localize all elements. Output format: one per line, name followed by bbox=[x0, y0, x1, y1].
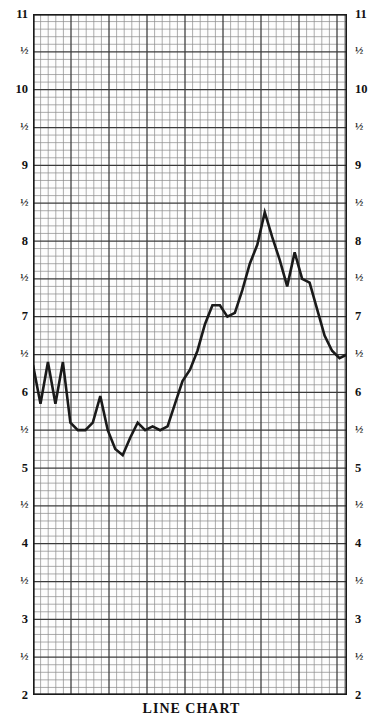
y-tick-left-9: 9 bbox=[22, 159, 28, 172]
half-fraction-glyph: ½ bbox=[355, 45, 363, 56]
y-tick-right-7_5: ½ bbox=[355, 272, 363, 283]
y-tick-left-10: 10 bbox=[16, 83, 29, 96]
half-fraction-glyph: ½ bbox=[355, 197, 363, 208]
y-tick-left-9_5: ½ bbox=[20, 121, 28, 132]
plot-area bbox=[33, 14, 347, 695]
half-fraction-glyph: ½ bbox=[20, 45, 28, 56]
y-tick-right-5: 5 bbox=[355, 462, 361, 475]
half-fraction-glyph: ½ bbox=[355, 272, 363, 283]
y-tick-left-8_5: ½ bbox=[20, 197, 28, 208]
y-tick-right-10: 10 bbox=[355, 83, 368, 96]
half-fraction-glyph: ½ bbox=[355, 575, 363, 586]
half-fraction-glyph: ½ bbox=[355, 424, 363, 435]
y-tick-right-7: 7 bbox=[355, 310, 361, 323]
half-fraction-glyph: ½ bbox=[20, 272, 28, 283]
y-tick-right-2: 2 bbox=[355, 689, 361, 702]
y-tick-left-2: 2 bbox=[22, 689, 28, 702]
y-tick-right-9: 9 bbox=[355, 159, 361, 172]
half-fraction-glyph: ½ bbox=[20, 197, 28, 208]
y-axis-right: 11½10½9½8½7½6½5½4½3½2 bbox=[351, 0, 383, 715]
y-tick-right-4_5: ½ bbox=[355, 499, 363, 510]
half-fraction-glyph: ½ bbox=[20, 348, 28, 359]
y-tick-right-9_5: ½ bbox=[355, 121, 363, 132]
y-tick-right-6_5: ½ bbox=[355, 348, 363, 359]
y-tick-left-8: 8 bbox=[22, 235, 28, 248]
half-fraction-glyph: ½ bbox=[20, 121, 28, 132]
half-fraction-glyph: ½ bbox=[20, 575, 28, 586]
y-tick-right-5_5: ½ bbox=[355, 424, 363, 435]
half-fraction-glyph: ½ bbox=[20, 499, 28, 510]
y-tick-left-6: 6 bbox=[22, 386, 28, 399]
y-tick-right-8: 8 bbox=[355, 235, 361, 248]
y-tick-right-3: 3 bbox=[355, 613, 361, 626]
line-chart-figure: 11½10½9½8½7½6½5½4½3½2 11½10½9½8½7½6½5½4½… bbox=[0, 0, 383, 715]
y-tick-left-3: 3 bbox=[22, 613, 28, 626]
half-fraction-glyph: ½ bbox=[20, 651, 28, 662]
y-tick-left-5_5: ½ bbox=[20, 424, 28, 435]
y-tick-right-10_5: ½ bbox=[355, 45, 363, 56]
y-tick-right-6: 6 bbox=[355, 386, 361, 399]
y-tick-right-2_5: ½ bbox=[355, 651, 363, 662]
y-tick-left-7_5: ½ bbox=[20, 272, 28, 283]
y-tick-left-4: 4 bbox=[22, 537, 28, 550]
y-tick-left-7: 7 bbox=[22, 310, 28, 323]
y-axis-left: 11½10½9½8½7½6½5½4½3½2 bbox=[0, 0, 32, 715]
half-fraction-glyph: ½ bbox=[355, 348, 363, 359]
y-tick-left-3_5: ½ bbox=[20, 575, 28, 586]
chart-caption: LINE CHART bbox=[0, 701, 383, 715]
y-tick-right-4: 4 bbox=[355, 537, 361, 550]
y-tick-left-11: 11 bbox=[16, 8, 28, 21]
y-tick-left-10_5: ½ bbox=[20, 45, 28, 56]
half-fraction-glyph: ½ bbox=[355, 499, 363, 510]
half-fraction-glyph: ½ bbox=[355, 121, 363, 132]
half-fraction-glyph: ½ bbox=[20, 424, 28, 435]
y-tick-left-2_5: ½ bbox=[20, 651, 28, 662]
y-tick-right-11: 11 bbox=[355, 8, 367, 21]
plot-svg bbox=[33, 14, 347, 695]
y-tick-right-8_5: ½ bbox=[355, 197, 363, 208]
y-tick-left-6_5: ½ bbox=[20, 348, 28, 359]
y-tick-left-5: 5 bbox=[22, 462, 28, 475]
y-tick-left-4_5: ½ bbox=[20, 499, 28, 510]
y-tick-right-3_5: ½ bbox=[355, 575, 363, 586]
half-fraction-glyph: ½ bbox=[355, 651, 363, 662]
